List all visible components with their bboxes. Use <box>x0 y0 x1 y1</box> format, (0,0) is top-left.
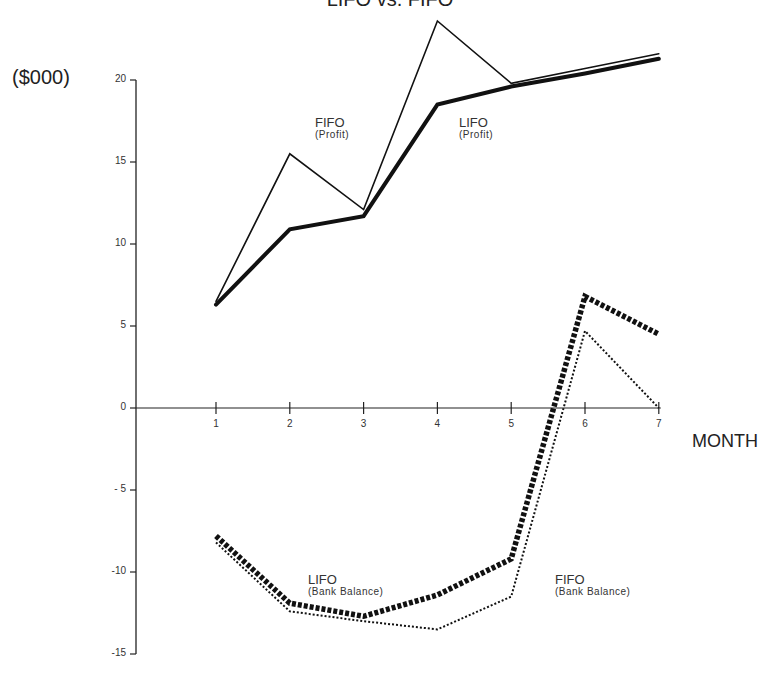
x-tick-label: 5 <box>503 418 519 429</box>
line-chart <box>0 0 780 678</box>
annotation-fifo-bank: FIFO (Bank Balance) <box>555 574 630 598</box>
y-tick-label: -15 <box>96 647 126 658</box>
series-lifo-profit <box>216 59 659 305</box>
y-tick-label: -10 <box>96 565 126 576</box>
y-tick-label: 0 <box>96 401 126 412</box>
series-lifo-bank-balance <box>216 296 659 616</box>
x-tick-label: 1 <box>208 418 224 429</box>
x-tick-label: 4 <box>429 418 445 429</box>
annotation-lifo-bank-title: LIFO <box>308 574 383 586</box>
y-tick-label: 20 <box>96 73 126 84</box>
annotation-fifo-profit-title: FIFO <box>315 117 349 129</box>
annotation-fifo-profit: FIFO (Profit) <box>315 117 349 141</box>
y-tick-label: 5 <box>96 319 126 330</box>
y-tick-label: 10 <box>96 237 126 248</box>
annotation-lifo-bank-sub: (Bank Balance) <box>308 586 383 598</box>
series-fifo-profit <box>216 21 659 301</box>
x-tick-label: 2 <box>282 418 298 429</box>
annotation-lifo-bank: LIFO (Bank Balance) <box>308 574 383 598</box>
y-tick-label: - 5 <box>96 483 126 494</box>
annotation-fifo-bank-sub: (Bank Balance) <box>555 586 630 598</box>
annotation-fifo-bank-title: FIFO <box>555 574 630 586</box>
x-tick-label: 6 <box>577 418 593 429</box>
annotation-fifo-profit-sub: (Profit) <box>315 129 349 141</box>
annotation-lifo-profit-sub: (Profit) <box>459 129 493 141</box>
series-lines <box>216 21 659 629</box>
x-tick-label: 7 <box>651 418 667 429</box>
annotation-lifo-profit-title: LIFO <box>459 117 493 129</box>
y-tick-label: 15 <box>96 155 126 166</box>
x-tick-label: 3 <box>356 418 372 429</box>
annotation-lifo-profit: LIFO (Profit) <box>459 117 493 141</box>
